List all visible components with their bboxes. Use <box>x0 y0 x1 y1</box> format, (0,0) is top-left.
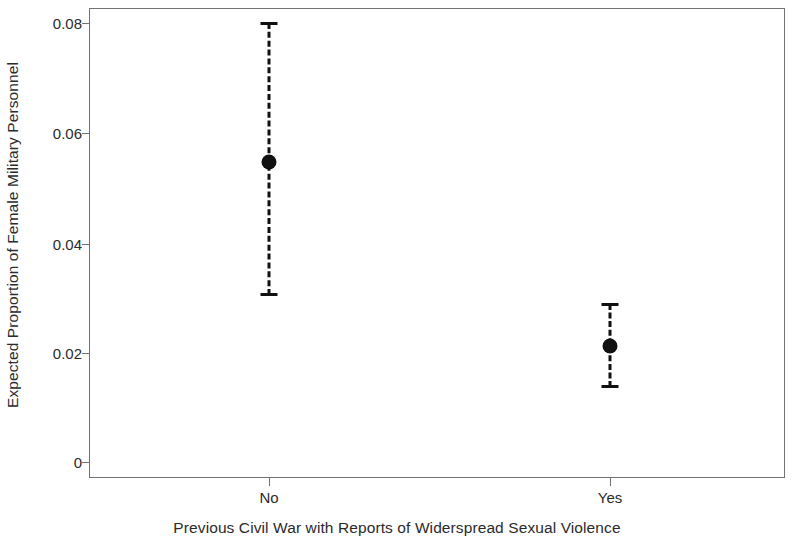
x-tick-label-no: No <box>209 489 329 506</box>
datapoint-no <box>262 155 277 170</box>
errorbar-no-lower-cap <box>261 293 278 296</box>
x-axis-title: Previous Civil War with Reports of Wider… <box>0 519 794 537</box>
y-tick-label-4: 0 <box>24 455 82 470</box>
y-tick-label-2: 0.04 <box>24 237 82 252</box>
chart-figure: Expected Proportion of Female Military P… <box>0 0 794 547</box>
errorbar-yes-upper-cap <box>602 303 619 306</box>
x-tick-label-yes: Yes <box>550 489 670 506</box>
x-tick-mark-0 <box>269 478 270 486</box>
x-tick-mark-1 <box>610 478 611 486</box>
y-tick-label-0: 0.08 <box>24 16 82 31</box>
errorbar-no-upper-cap <box>261 22 278 25</box>
plot-area <box>89 8 785 478</box>
y-tick-label-3: 0.02 <box>24 346 82 361</box>
errorbar-yes-lower-cap <box>602 385 619 388</box>
y-tick-label-1: 0.06 <box>24 126 82 141</box>
y-axis-tick-labels: 0.08 0.06 0.04 0.02 0 <box>22 0 82 547</box>
datapoint-yes <box>603 339 618 354</box>
